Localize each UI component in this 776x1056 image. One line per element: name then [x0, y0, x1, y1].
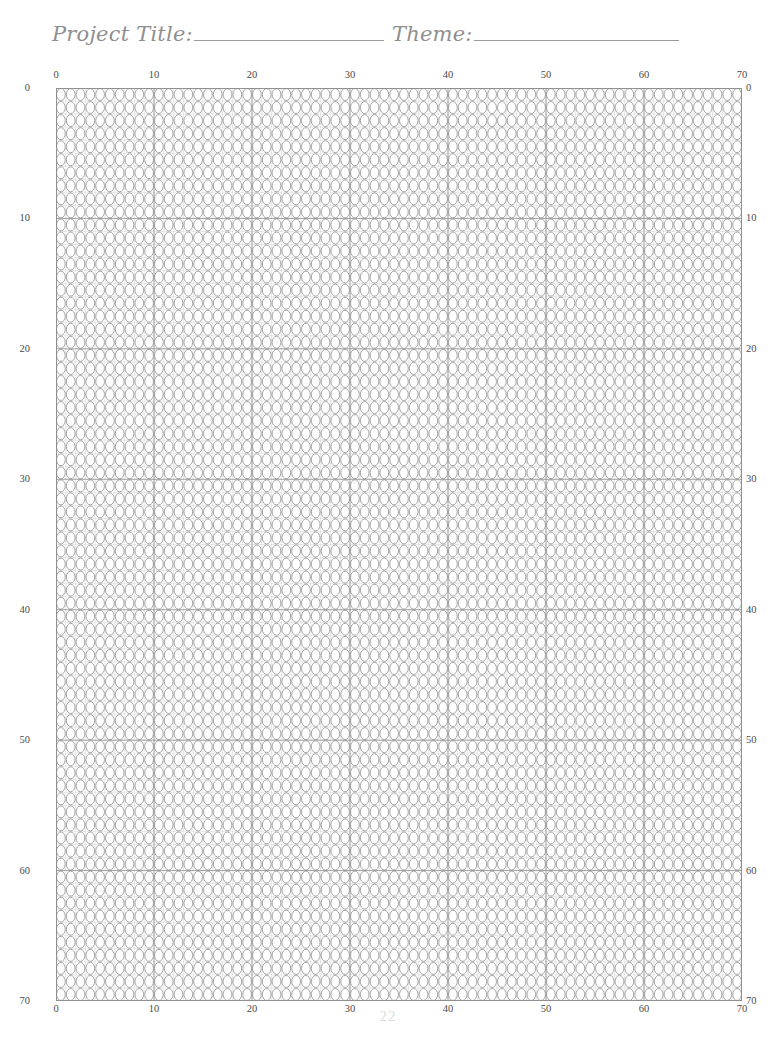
row-axis-right-tick: 60 — [746, 865, 757, 876]
bead-grid-canvas[interactable] — [56, 88, 742, 1001]
row-axis-right-tick: 40 — [746, 604, 757, 615]
page-number: 22 — [0, 1008, 776, 1025]
column-axis-top-tick: 60 — [639, 70, 650, 81]
row-axis-right-tick: 0 — [746, 83, 751, 94]
column-axis-top-tick: 0 — [53, 70, 58, 81]
row-axis-left-tick: 30 — [20, 474, 31, 485]
column-axis-top-tick: 20 — [247, 70, 258, 81]
project-title-write-line[interactable] — [194, 24, 384, 41]
row-axis-right: 010203040506070 — [746, 0, 776, 1056]
row-axis-left-tick: 20 — [20, 344, 31, 355]
column-axis-top-tick: 30 — [345, 70, 356, 81]
row-axis-left-tick: 10 — [20, 213, 31, 224]
row-axis-right-tick: 20 — [746, 344, 757, 355]
row-axis-left: 010203040506070 — [0, 0, 54, 1056]
bead-grid[interactable] — [56, 88, 742, 1001]
row-axis-left-tick: 70 — [20, 996, 31, 1007]
row-axis-right-tick: 70 — [746, 996, 757, 1007]
theme-label: Theme: — [392, 22, 473, 46]
theme-field[interactable]: Theme: — [392, 22, 679, 46]
row-axis-right-tick: 30 — [746, 474, 757, 485]
theme-write-line[interactable] — [474, 24, 679, 41]
project-title-label: Project Title: — [52, 22, 193, 46]
row-axis-right-tick: 50 — [746, 735, 757, 746]
column-axis-top: 010203040506070 — [0, 70, 776, 84]
header-fields: Project Title: Theme: — [0, 22, 776, 62]
column-axis-top-tick: 40 — [443, 70, 454, 81]
row-axis-left-tick: 40 — [20, 604, 31, 615]
column-axis-top-tick: 10 — [149, 70, 160, 81]
project-title-field[interactable]: Project Title: — [52, 22, 384, 46]
row-axis-left-tick: 0 — [25, 83, 30, 94]
row-axis-left-tick: 50 — [20, 735, 31, 746]
column-axis-top-tick: 50 — [541, 70, 552, 81]
row-axis-right-tick: 10 — [746, 213, 757, 224]
row-axis-left-tick: 60 — [20, 865, 31, 876]
